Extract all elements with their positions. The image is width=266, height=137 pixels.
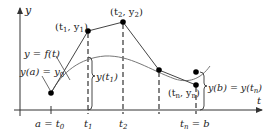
tick-label-t0: a = t0 — [35, 118, 65, 131]
label-point1: (t1, y1) — [55, 21, 88, 34]
point-tn-true — [193, 69, 199, 75]
brace-y-b — [200, 72, 207, 110]
point-t0 — [48, 90, 54, 96]
y-axis-label: y — [24, 4, 32, 17]
euler-method-diagram: y t (t1, y1) (t2, y2) (tn, yn) y = f(t) … — [0, 0, 266, 137]
tick-label-t2: t2 — [119, 118, 128, 131]
tick-label-tn: tn = b — [180, 118, 210, 131]
point-t2 — [120, 19, 126, 25]
label-point2: (t2, y2) — [110, 6, 143, 19]
label-initial: y(a) = y0 — [19, 66, 64, 79]
t-axis-label: t — [257, 95, 262, 106]
point-t3 — [156, 67, 162, 73]
tick-label-t1: t1 — [84, 118, 93, 131]
label-curve: y = f(t) — [23, 48, 60, 59]
label-brace-y-t1: y(t1) — [95, 71, 118, 84]
label-pointn: (tn, yn) — [168, 87, 200, 100]
label-brace-y-b: y(b) = y(tn) — [207, 82, 262, 95]
leader-initial — [42, 76, 50, 90]
brace-y-t1 — [88, 57, 95, 110]
